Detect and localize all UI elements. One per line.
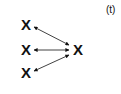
edge-bottom-arrow [34,55,69,71]
edge-top-arrow [34,27,69,45]
edges [0,0,121,94]
